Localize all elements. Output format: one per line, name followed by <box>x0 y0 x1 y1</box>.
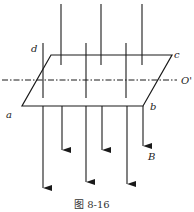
magnetic-field-diagram: a b c d O' B 图 8-16 <box>0 0 194 212</box>
label-field-b: B <box>147 151 155 162</box>
label-vertex-d: d <box>31 43 37 54</box>
label-axis-o-prime: O' <box>181 75 192 86</box>
field-lines-lower-arrows <box>43 106 143 188</box>
field-lines-back-upper <box>61 4 142 65</box>
label-vertex-b: b <box>150 101 156 112</box>
figure-caption: 图 8-16 <box>74 199 110 210</box>
field-lines-front-upper <box>43 43 126 98</box>
label-vertex-c: c <box>174 49 180 60</box>
label-vertex-a: a <box>6 109 12 120</box>
